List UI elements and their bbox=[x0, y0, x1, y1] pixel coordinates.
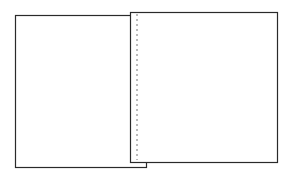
overlapping-sheets-diagram bbox=[0, 0, 294, 173]
right-sheet bbox=[131, 13, 278, 163]
left-sheet bbox=[16, 16, 147, 168]
